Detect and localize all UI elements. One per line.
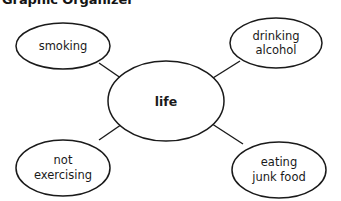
page-title-clip: Graphic Organizer bbox=[0, 0, 341, 8]
node-drinking-alcohol[interactable]: drinking alcohol bbox=[230, 18, 322, 68]
node-not-exercising-label-line1: not bbox=[54, 153, 73, 167]
node-drinking-alcohol-label-line2: alcohol bbox=[255, 43, 296, 57]
node-life-label: life bbox=[155, 94, 178, 109]
node-smoking-label-line1: smoking bbox=[39, 39, 88, 53]
mind-map-diagram: smoking drinking alcohol life not exerci… bbox=[0, 0, 341, 201]
node-eating-junk-food-label-line1: eating bbox=[261, 155, 297, 169]
graphic-organizer-canvas: Graphic Organizer smoking drinking alcoh… bbox=[0, 0, 341, 201]
node-eating-junk-food-label-line2: junk food bbox=[251, 170, 306, 184]
page-title: Graphic Organizer bbox=[2, 0, 133, 7]
node-drinking-alcohol-label-line1: drinking bbox=[253, 29, 300, 43]
node-not-exercising-label-line2: exercising bbox=[34, 168, 92, 182]
node-eating-junk-food[interactable]: eating junk food bbox=[232, 142, 326, 198]
node-life-center[interactable]: life bbox=[108, 61, 224, 141]
node-not-exercising[interactable]: not exercising bbox=[16, 140, 110, 196]
node-smoking[interactable]: smoking bbox=[16, 23, 110, 69]
